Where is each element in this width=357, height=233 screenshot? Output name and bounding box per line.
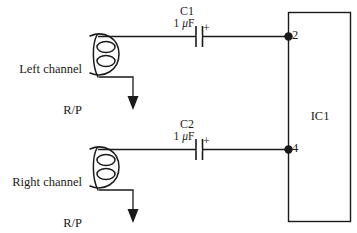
c2-value-number: 1 [174,130,183,142]
right-channel-group [90,139,293,223]
c2-value-unit: F [188,130,194,142]
tape-head-coil-icon-right [90,147,119,190]
left-channel-label-line1: Left channel [2,63,82,77]
c2-polarity-label: + [203,135,210,148]
ic1-pin-4-label: 4 [292,142,298,156]
left-channel-source-label: Left channel R/P [2,36,82,144]
ic1-label: IC1 [300,110,340,124]
ic1-pin-2-label: 2 [292,29,298,43]
left-channel-label-line2: R/P [2,104,82,118]
c2-gap-mask [197,148,202,152]
right-channel-label-line1: Right channel [2,176,82,190]
right-ground-wire [99,190,133,211]
c1-designator-label: C1 [164,5,210,18]
right-channel-source-label: Right channel R/P [2,149,82,233]
schematic-canvas: Left channel R/P Right channel R/P C1 1 … [0,0,357,233]
left-channel-group [90,26,293,110]
right-channel-label-line2: R/P [2,217,82,231]
ground-arrow-icon-left [128,96,139,110]
c1-polarity-label: + [203,22,210,35]
c2-designator-label: C2 [164,118,210,131]
c1-value-number: 1 [174,17,183,29]
left-ground-wire [99,77,133,98]
c1-value-unit: F [188,17,194,29]
ground-arrow-icon-right [128,209,139,223]
c1-gap-mask [197,35,202,39]
tape-head-coil-icon-left [90,34,119,77]
